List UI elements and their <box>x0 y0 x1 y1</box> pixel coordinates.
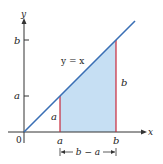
x-tick-label-a: a <box>57 135 63 146</box>
segment-label-b: b <box>121 77 127 88</box>
width-arrowhead-left-icon <box>61 150 65 154</box>
x-tick-label-b: b <box>113 135 119 146</box>
x-axis-label: x <box>148 127 153 137</box>
trapezoid-area-diagram: y x 0 b a a b y = x a b b − a <box>0 0 163 164</box>
width-arrowhead-right-icon <box>111 150 115 154</box>
origin-label: 0 <box>16 135 22 145</box>
shaded-region <box>60 40 116 132</box>
x-axis-arrow-icon <box>141 130 147 135</box>
function-label: y = x <box>60 56 84 66</box>
y-tick-label-a: a <box>14 90 20 101</box>
width-annotation: b − a <box>76 147 100 157</box>
segment-label-a: a <box>51 111 57 122</box>
y-tick-label-b: b <box>14 35 20 46</box>
y-axis-label: y <box>20 9 27 19</box>
